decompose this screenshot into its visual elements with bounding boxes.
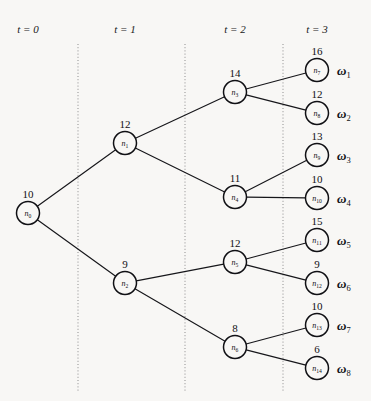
node-value-n8: 12 — [312, 88, 323, 100]
decision-tree-figure: t = 0t = 1t = 2t = 3 n010n112n29n314n411… — [0, 0, 371, 401]
node-value-n14: 6 — [314, 343, 320, 355]
tree-node-n7[interactable]: n716 — [306, 45, 329, 82]
node-value-n12: 9 — [314, 258, 320, 270]
tree-node-n9[interactable]: n913 — [306, 130, 329, 167]
outcome-label-w1: ω1 — [337, 63, 351, 80]
tree-node-layer: n010n112n29n314n411n512n68n716n812n913n1… — [17, 45, 329, 380]
node-value-n7: 16 — [312, 45, 324, 57]
tree-node-n3[interactable]: n314 — [224, 67, 247, 104]
edge-n5-n11 — [246, 243, 306, 259]
node-value-n3: 14 — [230, 67, 242, 79]
tree-node-n12[interactable]: n129 — [306, 258, 329, 295]
node-value-n10: 10 — [312, 173, 324, 185]
outcome-label-w4: ω4 — [337, 191, 351, 208]
node-value-n5: 12 — [230, 237, 241, 249]
tree-node-n1[interactable]: n112 — [114, 118, 137, 155]
tree-node-n13[interactable]: n1310 — [306, 300, 329, 337]
outcome-label-w6: ω6 — [337, 276, 351, 293]
tree-node-n10[interactable]: n1010 — [306, 173, 329, 210]
edge-n4-n10 — [246, 197, 305, 198]
edge-n2-n6 — [135, 289, 225, 341]
node-value-n13: 10 — [312, 300, 324, 312]
tree-node-n2[interactable]: n29 — [114, 258, 137, 295]
node-value-n0: 10 — [23, 188, 35, 200]
tree-node-n11[interactable]: n1115 — [306, 215, 329, 252]
tree-node-n6[interactable]: n68 — [224, 322, 247, 359]
edge-n0-n1 — [37, 150, 115, 207]
tree-node-n8[interactable]: n812 — [306, 88, 329, 125]
stage-label-layer: t = 0t = 1t = 2t = 3 — [17, 23, 328, 35]
edge-n1-n4 — [135, 148, 224, 192]
node-value-n4: 11 — [230, 172, 241, 184]
edge-n3-n8 — [246, 95, 306, 110]
node-value-n2: 9 — [122, 258, 128, 270]
tree-node-n14[interactable]: n146 — [306, 343, 329, 380]
tree-node-n5[interactable]: n512 — [224, 237, 247, 274]
edge-n6-n14 — [246, 350, 306, 365]
edge-n2-n5 — [136, 264, 223, 281]
stage-label-t2: t = 2 — [224, 23, 246, 35]
tree-canvas: t = 0t = 1t = 2t = 3 n010n112n29n314n411… — [0, 0, 371, 401]
tree-edge-layer — [37, 73, 306, 365]
outcome-label-w3: ω3 — [337, 148, 351, 165]
edge-n0-n2 — [37, 220, 115, 277]
outcome-label-w5: ω5 — [337, 233, 351, 250]
outcome-label-w8: ω8 — [337, 361, 351, 378]
outcome-label-w7: ω7 — [337, 318, 351, 335]
edge-n6-n13 — [246, 328, 306, 344]
outcome-label-layer: ω1ω2ω3ω4ω5ω6ω7ω8 — [337, 63, 351, 378]
tree-node-n0[interactable]: n010 — [17, 188, 40, 225]
edge-n5-n12 — [246, 265, 306, 280]
tree-node-n4[interactable]: n411 — [224, 172, 247, 209]
outcome-label-w2: ω2 — [337, 106, 351, 123]
stage-label-t1: t = 1 — [114, 23, 135, 35]
edge-n1-n3 — [135, 97, 224, 138]
stage-label-t3: t = 3 — [306, 23, 328, 35]
stage-label-t0: t = 0 — [17, 23, 39, 35]
node-value-n1: 12 — [120, 118, 131, 130]
node-value-n6: 8 — [232, 322, 238, 334]
node-value-n9: 13 — [312, 130, 324, 142]
node-value-n11: 15 — [312, 215, 324, 227]
edge-n3-n7 — [246, 73, 306, 89]
edge-n4-n9 — [245, 160, 307, 192]
